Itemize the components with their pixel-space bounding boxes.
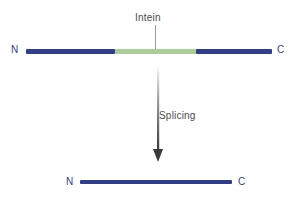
splicing-label: Splicing [159, 111, 196, 121]
n-terminus-label-mature: N [66, 177, 73, 187]
intein-splicing-diagram: Intein N C Splicing N C [0, 0, 307, 202]
n-terminus-label-precursor: N [11, 45, 18, 55]
intein-leader-line [155, 25, 156, 51]
c-terminus-label-mature: C [238, 177, 245, 187]
c-extein-segment [196, 49, 272, 54]
precursor-protein-bar [26, 49, 272, 54]
intein-label: Intein [135, 13, 161, 23]
mature-protein-bar [80, 180, 232, 184]
intein-segment [115, 49, 196, 54]
c-terminus-label-precursor: C [277, 45, 284, 55]
n-extein-segment [26, 49, 115, 54]
